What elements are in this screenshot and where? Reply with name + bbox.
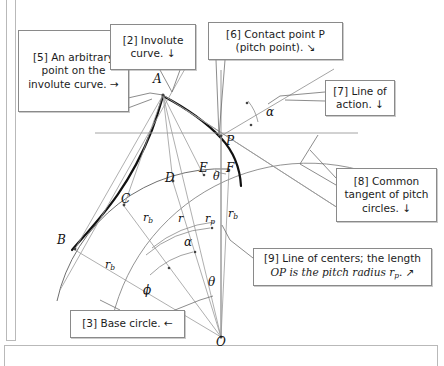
callout-8[interactable]: [8] Common tangent of pitch circles. ↓ [336, 168, 437, 222]
point-label-D: D [165, 171, 175, 185]
radius-label-r: r [178, 212, 183, 226]
leader-callout-2 [160, 70, 180, 92]
tangent-line-A-C [124, 95, 163, 206]
radius-sub: b [110, 263, 115, 272]
radius-sub: b [148, 216, 153, 225]
leader-callout-8b [310, 150, 336, 178]
tangent-line-A-D [163, 95, 173, 182]
leader-callout-9 [222, 225, 253, 258]
angle-label-alpha-at-P: α [266, 105, 274, 119]
angle-label-alpha-at-O: α [184, 235, 192, 249]
callout-7-text: [7] Line of action. ↓ [330, 85, 390, 112]
callout-3[interactable]: [3] Base circle. ← [70, 310, 185, 338]
callout-8-text: [8] Common tangent of pitch circles. ↓ [341, 175, 432, 216]
callout-6-line1: [6] Contact point P [226, 28, 325, 42]
point-label-B: B [57, 233, 66, 247]
point-label-A: A [153, 72, 162, 86]
callout-9-line2: OP is the pitch radius r [270, 266, 394, 278]
leader-callout-5b [128, 99, 152, 108]
callout-9-line2-wrap: OP is the pitch radius rp. ↗ [270, 266, 414, 282]
radius-label-rb-outer: rb [105, 258, 115, 272]
callout-2-text: [2] Involute curve. ↓ [115, 34, 191, 61]
callout-6-line2: (pitch point). ↘ [236, 41, 316, 55]
angle-label-theta-upper: θ [213, 170, 220, 183]
radius-OF [221, 170, 229, 337]
radius-sub: p [210, 217, 215, 226]
point-label-F: F [226, 161, 234, 175]
leader-callout-7b [285, 100, 325, 101]
angle-arc-phi [150, 252, 193, 275]
angle-label-theta-lower: θ [208, 275, 215, 289]
callout-7[interactable]: [7] Line of action. ↓ [325, 80, 395, 116]
callout-9[interactable]: [9] Line of centers; the length OP is th… [253, 248, 432, 286]
radius-label-rb-right: rb [228, 207, 238, 221]
leader-callout-8 [300, 135, 336, 185]
line-of-action-upper [221, 69, 334, 136]
callout-3-text: [3] Base circle. ← [82, 317, 173, 331]
radius-label-rb-mid: rb [143, 211, 153, 225]
point-label-C: C [121, 192, 130, 206]
point-label-E: E [199, 161, 208, 175]
callout-5-text: [5] An arbitrary point on the involute c… [23, 51, 124, 92]
radius-sub: b [233, 212, 238, 221]
point-label-O: O [216, 335, 226, 349]
radius-base: r [178, 212, 183, 225]
callout-9-line1: [9] Line of centers; the length [264, 252, 421, 266]
leader-callout-5 [128, 93, 163, 98]
line-of-action-extension [186, 110, 338, 208]
point-label-P: P [226, 134, 234, 148]
angle-label-phi: ϕ [143, 283, 151, 297]
leader-callout-7 [268, 92, 325, 104]
callout-2[interactable]: [2] Involute curve. ↓ [110, 24, 196, 70]
tangent-line-A-B [75, 95, 163, 249]
radius-label-rp: rp [205, 212, 215, 226]
callout-6[interactable]: [6] Contact point P (pitch point). ↘ [208, 22, 343, 60]
callout-9-line2-tail: . ↗ [399, 266, 414, 278]
